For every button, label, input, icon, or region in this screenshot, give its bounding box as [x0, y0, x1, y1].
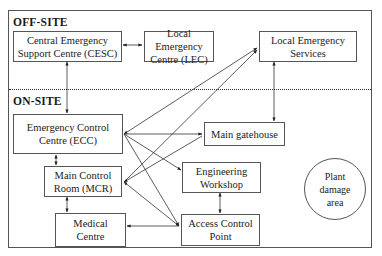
node-main-gatehouse-label: Main gatehouse	[211, 128, 278, 141]
node-access-control-point-label: Access Control Point	[188, 217, 252, 243]
node-medical-centre: Medical Centre	[55, 213, 126, 247]
node-access-control-point: Access Control Point	[181, 214, 260, 246]
node-les-label: Local Emergency Services	[271, 34, 345, 60]
node-les: Local Emergency Services	[259, 31, 357, 62]
node-medical-centre-label: Medical Centre	[73, 217, 107, 243]
node-plant-damage-area-label: Plant damage area	[319, 170, 350, 209]
node-mcr: Main Control Room (MCR)	[44, 166, 122, 197]
node-lec: Local Emergency Centre (LEC)	[144, 31, 214, 62]
node-engineering-workshop: Engineering Workshop	[182, 162, 261, 193]
node-engineering-workshop-label: Engineering Workshop	[196, 165, 247, 191]
node-mcr-label: Main Control Room (MCR)	[54, 169, 113, 195]
node-plant-damage-area: Plant damage area	[304, 158, 366, 220]
node-cesc-label: Central Emergency Support Centre (CESC)	[18, 34, 118, 60]
node-ecc-label: Emergency Control Centre (ECC)	[27, 121, 109, 147]
node-main-gatehouse: Main gatehouse	[204, 122, 285, 146]
node-cesc: Central Emergency Support Centre (CESC)	[13, 31, 122, 62]
node-lec-label: Local Emergency Centre (LEC)	[145, 27, 213, 66]
node-ecc: Emergency Control Centre (ECC)	[13, 114, 123, 154]
